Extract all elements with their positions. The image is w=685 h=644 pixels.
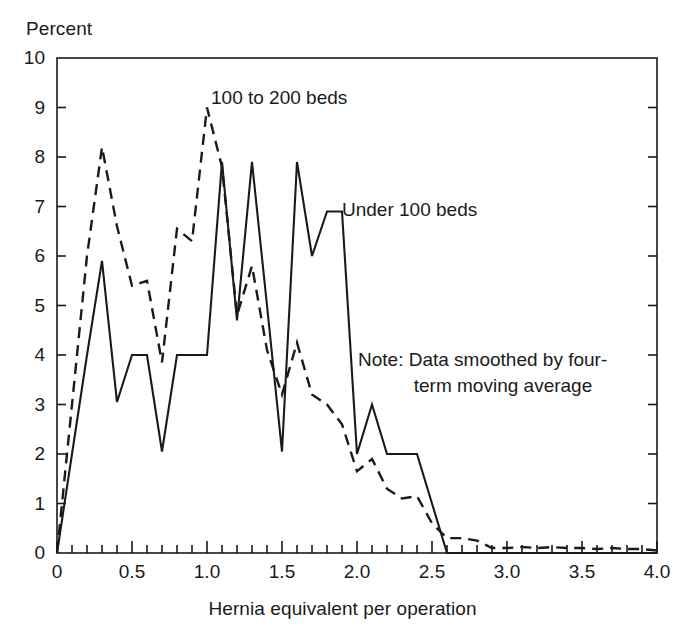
- x-axis-title: Hernia equivalent per operation: [0, 598, 685, 620]
- y-tick-label: 1: [5, 493, 45, 515]
- plot-frame: [57, 58, 657, 553]
- y-tick-label: 5: [5, 295, 45, 317]
- x-tick-label: 2.5: [419, 561, 445, 583]
- y-tick-label: 6: [5, 245, 45, 267]
- chart-figure: Percent 012345678910 00.51.01.52.02.53.0…: [0, 0, 685, 644]
- x-tick-label: 1.0: [194, 561, 220, 583]
- y-tick-label: 3: [5, 394, 45, 416]
- x-tick-label: 3.0: [494, 561, 520, 583]
- series-line-100-to-200-beds: [57, 108, 657, 554]
- y-tick-label: 10: [5, 47, 45, 69]
- x-tick-label: 3.5: [569, 561, 595, 583]
- x-tick-label: 1.5: [269, 561, 295, 583]
- y-tick-label: 0: [5, 542, 45, 564]
- series-label-100-to-200-beds: 100 to 200 beds: [211, 87, 347, 109]
- y-tick-label: 8: [5, 146, 45, 168]
- x-tick-label: 0: [52, 561, 63, 583]
- note-annotation: Note: Data smoothed by four- term moving…: [358, 347, 648, 399]
- y-tick-label: 4: [5, 344, 45, 366]
- note-line-2: term moving average: [358, 373, 648, 399]
- x-tick-label: 0.5: [119, 561, 145, 583]
- axis-ticks: [57, 108, 657, 554]
- x-tick-label: 4.0: [644, 561, 670, 583]
- note-line-1: Note: Data smoothed by four-: [358, 347, 648, 373]
- y-tick-label: 7: [5, 196, 45, 218]
- x-tick-label: 2.0: [344, 561, 370, 583]
- y-tick-label: 9: [5, 97, 45, 119]
- series-label-under-100-beds: Under 100 beds: [342, 199, 477, 221]
- y-tick-label: 2: [5, 443, 45, 465]
